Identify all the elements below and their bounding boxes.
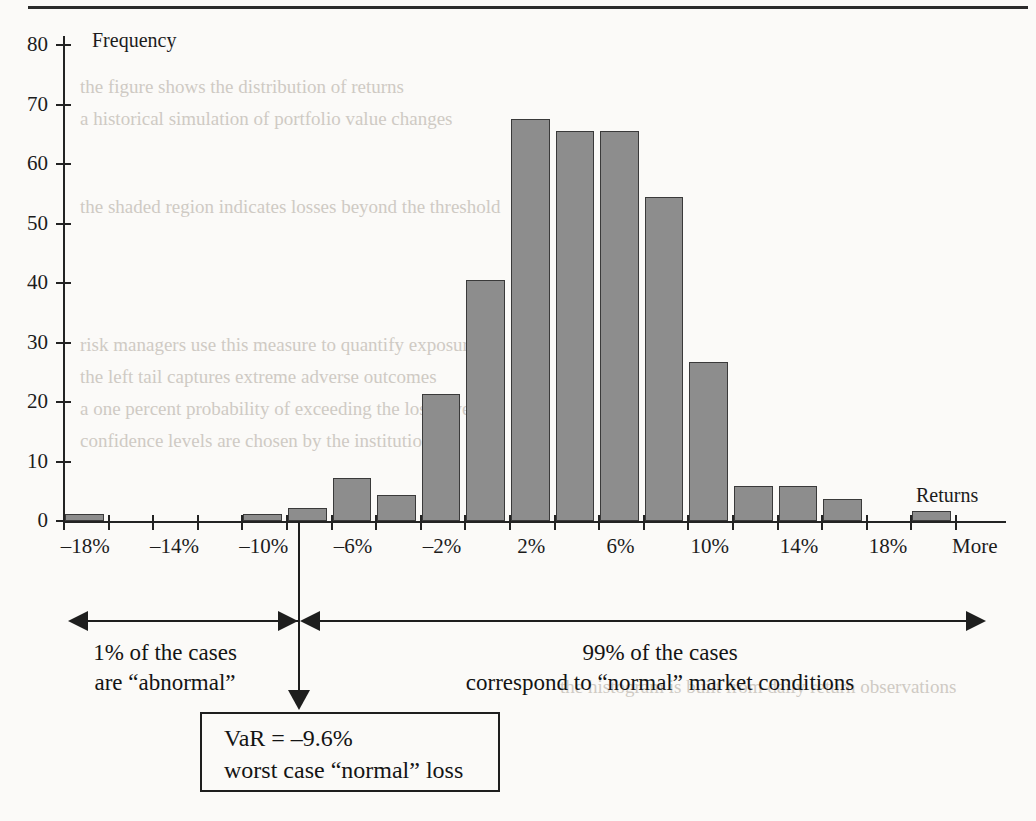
y-tick-label: 80 — [0, 34, 48, 55]
y-tick — [56, 104, 71, 106]
x-tick — [152, 515, 154, 530]
left-span-line — [88, 620, 298, 622]
y-tick-label: 30 — [0, 332, 48, 353]
histogram-bar — [734, 486, 773, 521]
figure-page: the figure shows the distribution of ret… — [0, 0, 1036, 821]
right-span-line — [320, 620, 966, 622]
annotation-band: 1% of the cases are “abnormal” 99% of th… — [0, 560, 1036, 821]
y-tick — [56, 282, 71, 284]
y-tick — [56, 461, 71, 463]
histogram-bar — [689, 362, 728, 521]
x-tick-label: –6% — [308, 535, 398, 557]
x-tick-label: –14% — [130, 535, 220, 557]
histogram-bar — [912, 511, 951, 521]
var-callout-box: VaR = –9.6% worst case “normal” loss — [200, 712, 500, 792]
left-span-arrowhead-right — [278, 611, 298, 631]
y-tick-label: 10 — [0, 451, 48, 472]
histogram-bar — [243, 514, 282, 521]
y-tick-label: 40 — [0, 272, 48, 293]
histogram-bar — [600, 131, 639, 521]
x-tick — [108, 515, 110, 530]
x-tick-label: –18% — [40, 535, 130, 557]
y-tick — [56, 401, 71, 403]
histogram-bar — [466, 280, 505, 521]
var-value-text: VaR = –9.6% — [224, 723, 353, 753]
left-span-label-line2: are “abnormal” — [30, 668, 300, 698]
left-span-label-line1: 1% of the cases — [30, 638, 300, 668]
y-tick — [56, 44, 71, 46]
histogram-bar — [65, 514, 104, 521]
histogram-bar — [288, 508, 327, 521]
y-tick-label: 50 — [0, 213, 48, 234]
x-tick — [866, 515, 868, 530]
x-tick-label: 10% — [665, 535, 755, 557]
var-description-text: worst case “normal” loss — [224, 755, 463, 785]
x-tick — [197, 515, 199, 530]
y-axis-title: Frequency — [92, 30, 176, 50]
right-span-label-line2: correspond to “normal” market conditions — [330, 668, 990, 698]
histogram-bar — [779, 486, 818, 521]
y-tick — [56, 163, 71, 165]
x-tick-label: –2% — [397, 535, 487, 557]
histogram-bar — [556, 131, 595, 521]
y-tick — [56, 223, 71, 225]
x-tick-label: 18% — [843, 535, 933, 557]
histogram-bar — [422, 394, 461, 521]
x-axis-line — [63, 521, 1006, 523]
histogram-bar — [823, 499, 862, 521]
y-tick-label: 20 — [0, 391, 48, 412]
histogram-bar — [645, 197, 684, 521]
right-span-arrowhead-right — [966, 611, 986, 631]
histogram-plot: Frequency Returns 01020304050607080 –18%… — [0, 0, 1036, 560]
y-tick-label: 70 — [0, 94, 48, 115]
y-tick — [56, 342, 71, 344]
right-span-arrowhead-left — [300, 611, 320, 631]
histogram-bar — [333, 478, 372, 521]
x-tick — [955, 515, 957, 530]
left-span-arrowhead-left — [68, 611, 88, 631]
y-tick-label: 60 — [0, 153, 48, 174]
histogram-bar — [511, 119, 550, 521]
x-label-more: More — [952, 535, 998, 557]
right-span-label-line1: 99% of the cases — [330, 638, 990, 668]
histogram-bar — [377, 495, 416, 521]
x-tick-label: –10% — [219, 535, 309, 557]
y-tick-label: 0 — [0, 510, 48, 531]
x-tick-label: 2% — [486, 535, 576, 557]
y-axis-line — [63, 36, 65, 523]
x-tick-label: 14% — [754, 535, 844, 557]
x-axis-title: Returns — [916, 485, 978, 505]
x-tick-label: 6% — [576, 535, 666, 557]
